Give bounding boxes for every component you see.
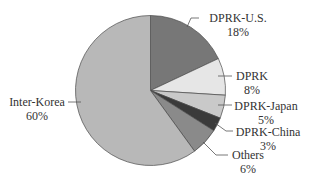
label-dprk-us: DPRK-U.S. <box>209 11 266 25</box>
label-dprk-us-pct: 18% <box>227 25 249 39</box>
label-dprk-pct: 8% <box>244 83 260 97</box>
label-inter-korea: Inter-Korea <box>9 95 65 109</box>
label-dprk-japan: DPRK-Japan <box>234 99 297 113</box>
pie-chart: DPRK-U.S. 18% DPRK 8% DPRK-Japan 5% DPRK… <box>0 0 309 183</box>
label-others: Others <box>232 148 264 162</box>
label-dprk-china: DPRK-China <box>236 125 301 139</box>
label-inter-korea-pct: 60% <box>26 109 48 123</box>
label-dprk: DPRK <box>236 69 268 83</box>
label-others-pct: 6% <box>240 162 256 176</box>
leader-others <box>203 142 228 155</box>
pie-slices <box>76 16 226 166</box>
